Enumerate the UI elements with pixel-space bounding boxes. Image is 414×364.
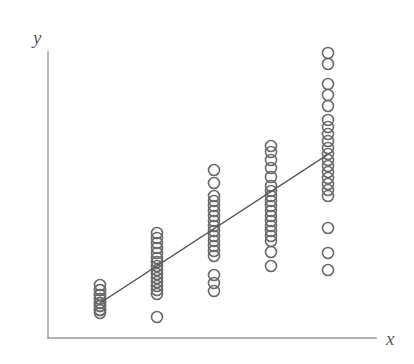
data-point-marker [323,248,334,259]
data-point-marker [209,165,220,176]
y-axis-label: y [33,28,41,47]
data-point-marker [323,48,334,59]
data-point-marker [266,247,277,258]
data-point-marker [323,223,334,234]
data-point-marker [323,101,334,112]
data-point-marker [152,312,163,323]
data-point-marker [209,178,220,189]
data-points [95,48,334,323]
data-point-marker [323,90,334,101]
scatter-plot-figure: y x [0,0,414,364]
data-point-marker [323,59,334,70]
data-point-marker [209,286,220,297]
data-point-marker [266,261,277,272]
plot-canvas [0,0,414,364]
data-point-marker [323,265,334,276]
x-axis-label: x [386,329,394,348]
data-point-marker [323,79,334,90]
